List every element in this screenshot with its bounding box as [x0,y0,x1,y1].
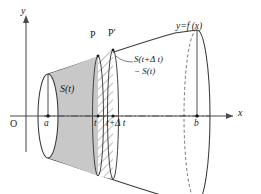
point-P-marker [97,55,100,58]
hatched-slab-region [98,50,113,179]
ellipse-b-visible-half [197,30,210,194]
y-axis-label: y [21,6,25,17]
ellipse-b-hidden-half [184,30,197,194]
hatched-region-label-line2: − S(t) [134,66,155,77]
hatched-region-label-line1: S(t+Δ t) [134,54,163,65]
x-mark-label-a: a [44,119,49,129]
point-P-prime-marker [112,49,115,52]
figure-canvas [0,0,261,194]
point-P-label: P [90,30,96,41]
curve-equation-label: y=f (x) [176,22,202,32]
origin-label: O [10,119,17,130]
solid-of-revolution-figure: y x O y=f (x) P P′ a t t+Δ t b S(t) S(t+… [0,0,261,194]
cross-section-ellipse-at-b [184,30,210,194]
point-P-prime-label: P′ [108,28,116,39]
x-axis-label: x [238,108,242,119]
x-mark-label-b: b [194,119,199,129]
x-mark-label-t: t [94,119,97,129]
shaded-region-label: S(t) [60,84,74,95]
annotation-leader-line [116,56,133,62]
x-axis-arrowhead [226,113,233,119]
x-mark-label-t-plus-delta-t: t+Δ t [106,119,125,129]
